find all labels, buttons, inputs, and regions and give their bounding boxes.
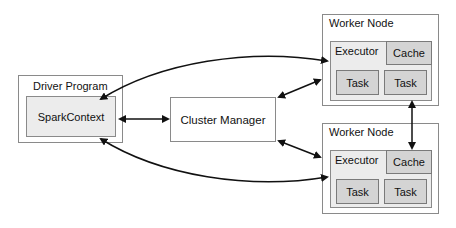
arrow-cluster-worker1: [279, 80, 320, 97]
arrow-driver-worker2: [101, 139, 327, 182]
arrow-cluster-worker2: [279, 141, 320, 157]
arrow-driver-worker1: [101, 56, 327, 99]
connection-arrows: [0, 0, 456, 228]
